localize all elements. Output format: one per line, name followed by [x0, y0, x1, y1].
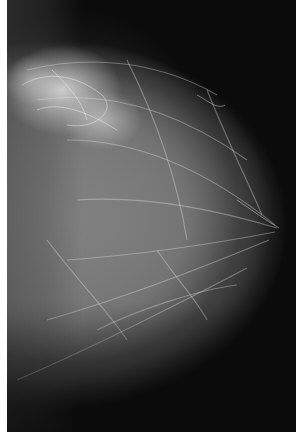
mammogram-image: [7, 0, 296, 432]
background-fade: [7, 0, 296, 432]
